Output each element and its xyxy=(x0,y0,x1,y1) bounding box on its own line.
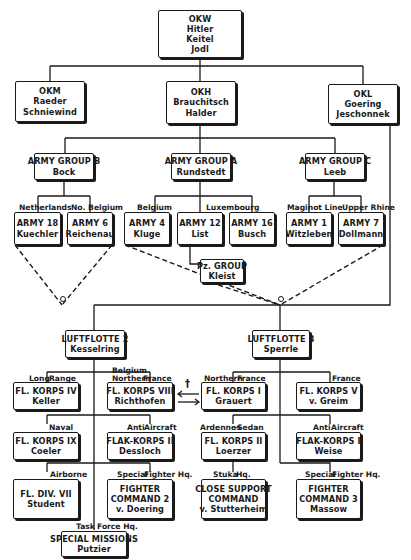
flak2-name: Dessloch xyxy=(119,446,161,456)
node-luftflotte-3: LUFTFLOTTE 3 Sperrle xyxy=(252,330,310,358)
node-luftflotte-2: LUFTFLOTTE 2 Kesselring xyxy=(65,330,125,358)
label-hq: Hq. xyxy=(236,471,251,479)
a12-name: List xyxy=(191,229,208,239)
fk4-title: FL. KORPS IV xyxy=(15,386,76,396)
node-fl-div-vii: FL. DIV. VII Student xyxy=(13,479,79,519)
node-army-7: ARMY 7 Dollmann xyxy=(338,212,384,245)
label-belgium: Belgium xyxy=(137,204,172,212)
okm-name-1: Raeder xyxy=(33,96,66,106)
label-anti: Anti xyxy=(127,424,145,432)
label-maginot-line: Maginot Line xyxy=(287,204,343,212)
node-fighter-command-2: FIGHTER COMMAND 2 v. Doering xyxy=(107,479,173,519)
node-fl-korps-ii: FL. KORPS II Loerzer xyxy=(201,432,266,460)
a18-name: Kuechler xyxy=(17,229,58,239)
node-fl-korps-ix: FL. KORPS IX Coeler xyxy=(13,432,79,460)
node-army-4: ARMY 4 Kluge xyxy=(124,212,170,245)
node-okm: OKM Raeder Schniewind xyxy=(15,81,85,122)
node-special-missions: SPECIAL MISSIONS Putzier xyxy=(61,531,127,557)
label-aircraft-2: Aircraft xyxy=(331,424,364,432)
label-stuka: Stuka xyxy=(213,471,238,479)
a4-name: Kluge xyxy=(134,229,161,239)
fk8-name: Richthofen xyxy=(114,396,165,406)
csc-title-2: COMMAND xyxy=(209,494,259,504)
node-okl: OKL Goering Jeschonnek xyxy=(328,84,398,124)
node-flak-korps-i: FLAK-KORPS I Weise xyxy=(296,432,361,460)
fd7-title: FL. DIV. VII xyxy=(20,489,71,499)
a6-title: ARMY 6 xyxy=(72,218,108,228)
node-army-12: ARMY 12 List xyxy=(177,212,223,245)
a16-name: Busch xyxy=(238,229,266,239)
okl-name-1: Goering xyxy=(344,99,381,109)
label-luxembourg: Luxembourg xyxy=(206,204,259,212)
node-fl-korps-i: FL. KORPS I Grauert xyxy=(201,382,266,410)
lf2-name: Kesselring xyxy=(70,344,119,354)
label-anti-2: Anti xyxy=(313,424,331,432)
node-army-group-b: ARMY GROUP B Bock xyxy=(34,153,94,180)
fk2-title: FL. KORPS II xyxy=(204,436,262,446)
label-fighter-hq: Fighter Hq. xyxy=(144,471,192,479)
lf3-title: LUFTFLOTTE 3 xyxy=(248,334,315,344)
flak1-name: Weise xyxy=(314,446,342,456)
node-army-6: ARMY 6 Reichenau xyxy=(67,212,113,245)
fc3-name: Massow xyxy=(310,504,347,514)
okl-name-2: Jeschonnek xyxy=(336,109,389,119)
node-fl-korps-iv: FL. KORPS IV Keller xyxy=(13,382,79,410)
fd7-name: Student xyxy=(27,499,65,509)
a16-title: ARMY 16 xyxy=(231,218,273,228)
fc2-title-1: FIGHTER xyxy=(120,484,160,494)
label-airborne: Airborne xyxy=(50,471,87,479)
label-task: Task xyxy=(76,523,95,531)
node-flak-korps-ii: FLAK-KORPS II Dessloch xyxy=(107,432,173,460)
label-upper-rhine: Upper Rhine xyxy=(342,204,395,212)
a18-title: ARMY 18 xyxy=(17,218,59,228)
lf2-title: LUFTFLOTTE 2 xyxy=(62,334,129,344)
okm-title: OKM xyxy=(39,86,61,96)
dagger-marker: † xyxy=(185,378,190,389)
fk2-name: Loerzer xyxy=(216,446,252,456)
node-army-group-a: ARMY GROUP A Rundstedt xyxy=(171,153,231,180)
okm-name-2: Schniewind xyxy=(23,107,77,117)
node-fl-korps-v: FL. KORPS V v. Greim xyxy=(296,382,361,410)
lf3-name: Sperrle xyxy=(264,344,298,354)
csc-name: v. Stutterheim xyxy=(200,504,268,514)
agb-title: ARMY GROUP B xyxy=(28,156,101,166)
okh-name-2: Halder xyxy=(185,108,216,118)
fc3-title-2: COMMAND 3 xyxy=(299,494,358,504)
okw-name-3: Jodl xyxy=(191,44,209,54)
node-army-1: ARMY 1 Witzleben xyxy=(286,212,332,245)
a1-name: Witzleben xyxy=(285,229,332,239)
a4-title: ARMY 4 xyxy=(129,218,165,228)
label-netherlands: Netherlands xyxy=(19,204,72,212)
node-army-16: ARMY 16 Busch xyxy=(229,212,275,245)
fk5-name: v. Greim xyxy=(309,396,348,406)
aga-name: Rundstedt xyxy=(177,167,226,177)
fk5-title: FL. KORPS V xyxy=(299,386,357,396)
fk9-title: FL. KORPS IX xyxy=(15,436,76,446)
node-close-support-command: CLOSE SUPPORT COMMAND v. Stutterheim xyxy=(201,479,266,519)
a7-title: ARMY 7 xyxy=(343,218,379,228)
agb-name: Bock xyxy=(53,167,76,177)
fk1-name: Grauert xyxy=(215,396,251,406)
node-okh: OKH Brauchitsch Halder xyxy=(166,81,236,124)
node-panzer-group-kleist: Pz. GROUP Kleist xyxy=(200,259,244,283)
junction-marker-lf3 xyxy=(278,296,284,302)
node-army-group-c: ARMY GROUP C Leeb xyxy=(305,153,365,180)
a7-name: Dollmann xyxy=(339,229,384,239)
a6-name: Reichenau xyxy=(66,229,115,239)
agc-name: Leeb xyxy=(324,167,347,177)
junction-marker-lf2 xyxy=(60,296,66,302)
label-naval: Naval xyxy=(49,424,73,432)
label-aircraft: Aircraft xyxy=(144,424,177,432)
agc-title: ARMY GROUP C xyxy=(299,156,371,166)
node-fl-korps-viii: FL. KORPS VIII Richthofen xyxy=(107,382,173,410)
pzk-title: Pz. GROUP xyxy=(197,261,247,271)
okh-name-1: Brauchitsch xyxy=(173,97,229,107)
label-force-hq: Force Hq. xyxy=(97,523,138,531)
flak1-title: FLAK-KORPS I xyxy=(296,436,360,446)
label-no-belgium: No. Belgium xyxy=(71,204,123,212)
sm-name: Putzier xyxy=(77,544,111,554)
aga-title: ARMY GROUP A xyxy=(165,156,238,166)
fk4-name: Keller xyxy=(32,396,60,406)
label-fighter-hq-2: Fighter Hq. xyxy=(332,471,380,479)
fc2-title-2: COMMAND 2 xyxy=(111,494,170,504)
